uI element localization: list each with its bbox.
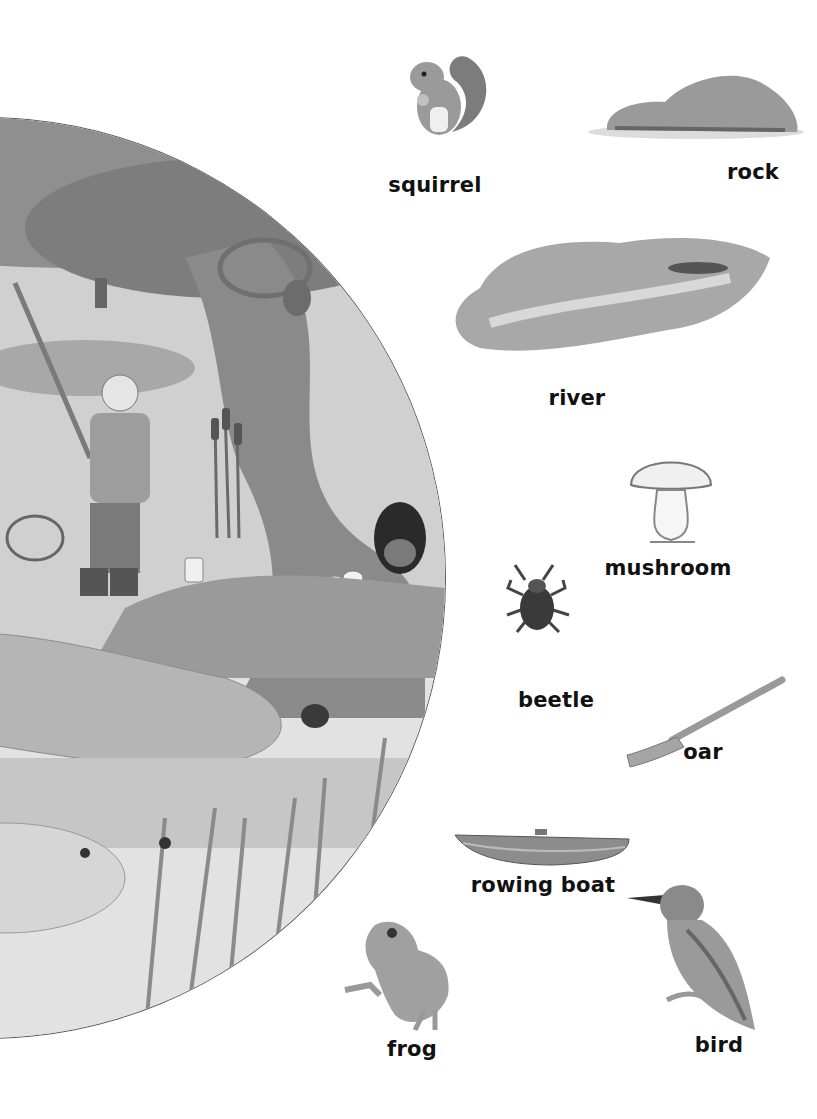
- beetle-icon: [503, 560, 575, 635]
- label-frog: frog: [387, 1037, 437, 1061]
- beetle-picture: [503, 560, 575, 635]
- rock-icon: [585, 60, 807, 142]
- scene-illustration: [0, 118, 445, 1038]
- mushroom-icon: [625, 445, 717, 550]
- bird-picture: [627, 880, 757, 1030]
- label-mushroom: mushroom: [605, 556, 732, 580]
- label-rowing-boat: rowing boat: [471, 873, 616, 897]
- frog-icon: [340, 915, 458, 1033]
- label-river: river: [549, 386, 606, 410]
- rowing-boat-icon: [453, 825, 631, 867]
- scene-artwork: [0, 118, 445, 1038]
- label-oar: oar: [683, 740, 723, 764]
- river-icon: [440, 228, 780, 368]
- rowing-boat-picture: [453, 825, 631, 867]
- mushroom-picture: [625, 445, 717, 550]
- river-picture: [440, 228, 780, 368]
- label-beetle: beetle: [518, 688, 594, 712]
- rock-picture: [585, 60, 807, 142]
- label-squirrel: squirrel: [388, 173, 481, 197]
- squirrel-icon: [397, 52, 495, 142]
- label-bird: bird: [695, 1033, 743, 1057]
- label-rock: rock: [727, 160, 779, 184]
- bird-icon: [627, 880, 757, 1030]
- squirrel-picture: [397, 52, 495, 142]
- frog-picture: [340, 915, 458, 1033]
